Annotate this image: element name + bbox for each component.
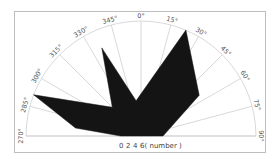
polar-chart: 270°285°300°315°330°345°0°15°30°45°60°75… [0,0,280,163]
angle-label: 270° [17,128,25,144]
angle-label: 285° [19,96,31,113]
radial-axis-labels: 0 2 4 6 ( number ) [119,142,182,150]
angle-label: 345° [101,14,118,26]
angle-label: 330° [72,25,90,40]
angle-label: 0° [137,12,144,20]
angle-label: 90° [257,130,265,142]
angle-label: 60° [239,69,252,83]
angle-label: 30° [194,26,208,39]
radial-axis-title: ( number ) [145,142,183,150]
radial-tick-2: 2 [126,142,130,150]
angle-label: 300° [30,67,45,85]
radial-tick-4: 4 [133,142,138,150]
radial-tick-0: 0 [119,142,123,150]
